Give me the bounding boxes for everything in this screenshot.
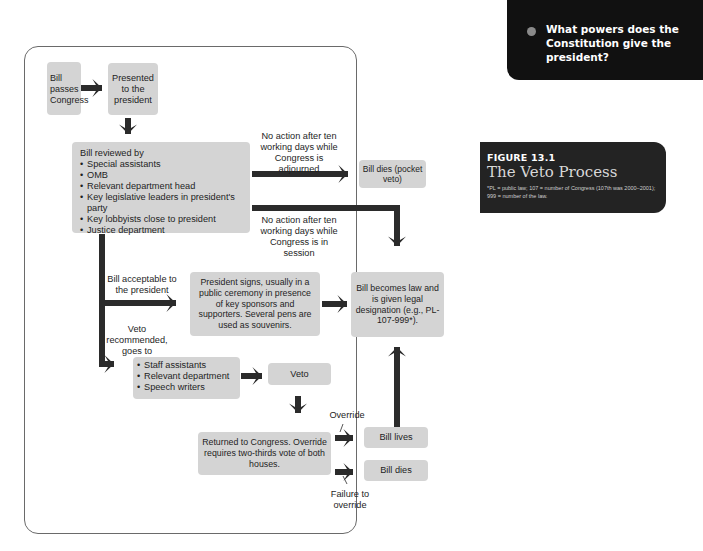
reviewed-item: Key lobbyists close to president	[80, 214, 244, 225]
label-adjourned: No action after ten working days while C…	[256, 131, 342, 175]
label-acceptable: Bill acceptable to the president	[106, 274, 178, 296]
reviewed-list: Special assistants OMB Relevant departme…	[80, 159, 244, 236]
reviewed-item: Key legislative leaders in president's p…	[80, 192, 244, 214]
veto-reviewers-list: Staff assistants Relevant department Spe…	[137, 360, 236, 393]
node-reviewed: Bill reviewed by Special assistants OMB …	[72, 142, 250, 233]
node-president-signs: President signs, usually in a public cer…	[190, 272, 320, 336]
veto-reviewer-item: Staff assistants	[137, 360, 236, 371]
label-failure: Failure to override	[322, 489, 378, 511]
node-bill-passes: Bill passes Congress	[47, 62, 81, 115]
label-override: Override	[325, 410, 369, 421]
node-returned: Returned to Congress. Override requires …	[198, 432, 331, 475]
reviewed-title: Bill reviewed by	[80, 148, 244, 159]
label-veto-recommended: Veto recommended, goes to	[106, 324, 168, 357]
reviewed-item: Justice department	[80, 225, 244, 236]
veto-reviewer-item: Relevant department	[137, 371, 236, 382]
veto-reviewer-item: Speech writers	[137, 382, 236, 393]
reviewed-item: Relevant department head	[80, 181, 244, 192]
reviewed-item: OMB	[80, 170, 244, 181]
node-veto: Veto	[268, 363, 331, 385]
node-pocket-veto: Bill dies (pocket veto)	[359, 160, 426, 188]
node-veto-reviewers: Staff assistants Relevant department Spe…	[133, 357, 240, 399]
reviewed-item: Special assistants	[80, 159, 244, 170]
node-becomes-law: Bill becomes law and is given legal desi…	[351, 272, 444, 337]
node-bill-lives: Bill lives	[364, 427, 428, 448]
node-bill-dies: Bill dies	[364, 460, 428, 481]
label-in-session: No action after ten working days while C…	[256, 215, 342, 259]
node-presented: Presented to the president	[108, 63, 158, 115]
